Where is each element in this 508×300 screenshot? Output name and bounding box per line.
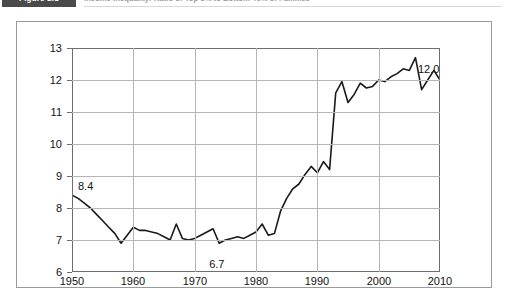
y-axis-tick-label: 8 [40, 203, 62, 214]
y-axis-tick [67, 272, 72, 273]
x-axis-tick-label: 2000 [357, 276, 401, 287]
x-axis-tick-label: 1990 [295, 276, 339, 287]
gridline-vertical [256, 48, 257, 272]
y-axis-tick-label: 13 [40, 43, 62, 54]
y-axis-labels: 131211109876 [38, 0, 62, 300]
data-point-annotation: 12.0 [418, 64, 439, 75]
data-point-annotation: 8.4 [78, 181, 93, 192]
x-axis-tick-label: 2010 [418, 276, 462, 287]
gridline-vertical [195, 48, 196, 272]
y-axis-tick-label: 10 [40, 139, 62, 150]
x-axis-tick-label: 1970 [173, 276, 217, 287]
figure-caption-banner: Figure 2.1 Income Inequality: Ratio of T… [0, 0, 508, 8]
y-axis-tick [67, 176, 72, 177]
y-axis-tick [67, 112, 72, 113]
y-axis-tick [67, 240, 72, 241]
y-axis-tick [67, 208, 72, 209]
y-axis-tick [67, 48, 72, 49]
figure-container: Figure 2.1 Income Inequality: Ratio of T… [0, 0, 508, 300]
gridline-vertical [379, 48, 380, 272]
gridline-vertical [317, 48, 318, 272]
y-axis-tick-label: 12 [40, 75, 62, 86]
x-axis-tick-label: 1980 [234, 276, 278, 287]
x-axis-tick-label: 1960 [111, 276, 155, 287]
y-axis-tick-label: 7 [40, 235, 62, 246]
y-axis-tick-label: 9 [40, 171, 62, 182]
gridline-vertical [133, 48, 134, 272]
y-axis-tick [67, 80, 72, 81]
data-point-annotation: 6.7 [209, 259, 224, 270]
caption-divider [84, 6, 502, 7]
y-axis-tick [67, 144, 72, 145]
x-axis-tick-label: 1950 [50, 276, 94, 287]
y-axis-tick-label: 11 [40, 107, 62, 118]
plot-area [72, 48, 440, 272]
